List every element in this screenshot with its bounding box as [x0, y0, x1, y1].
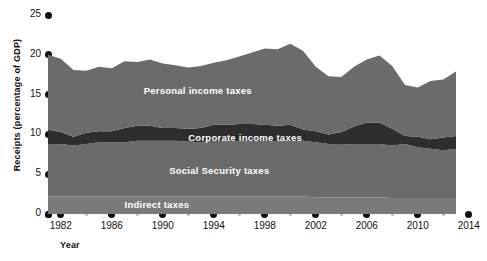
chart-container: Receipts (percentage of GDP) Year 051015… — [0, 0, 487, 261]
series-label-corporate-income-taxes: Corporate income taxes — [188, 132, 302, 143]
series-label-personal-income-taxes: Personal income taxes — [144, 85, 252, 96]
series-label-social-security-taxes: Social Security taxes — [169, 165, 269, 176]
area-series-indirect-taxes — [48, 196, 456, 214]
stacked-area-plot — [0, 0, 487, 261]
series-label-indirect-taxes: Indirect taxes — [125, 199, 190, 210]
